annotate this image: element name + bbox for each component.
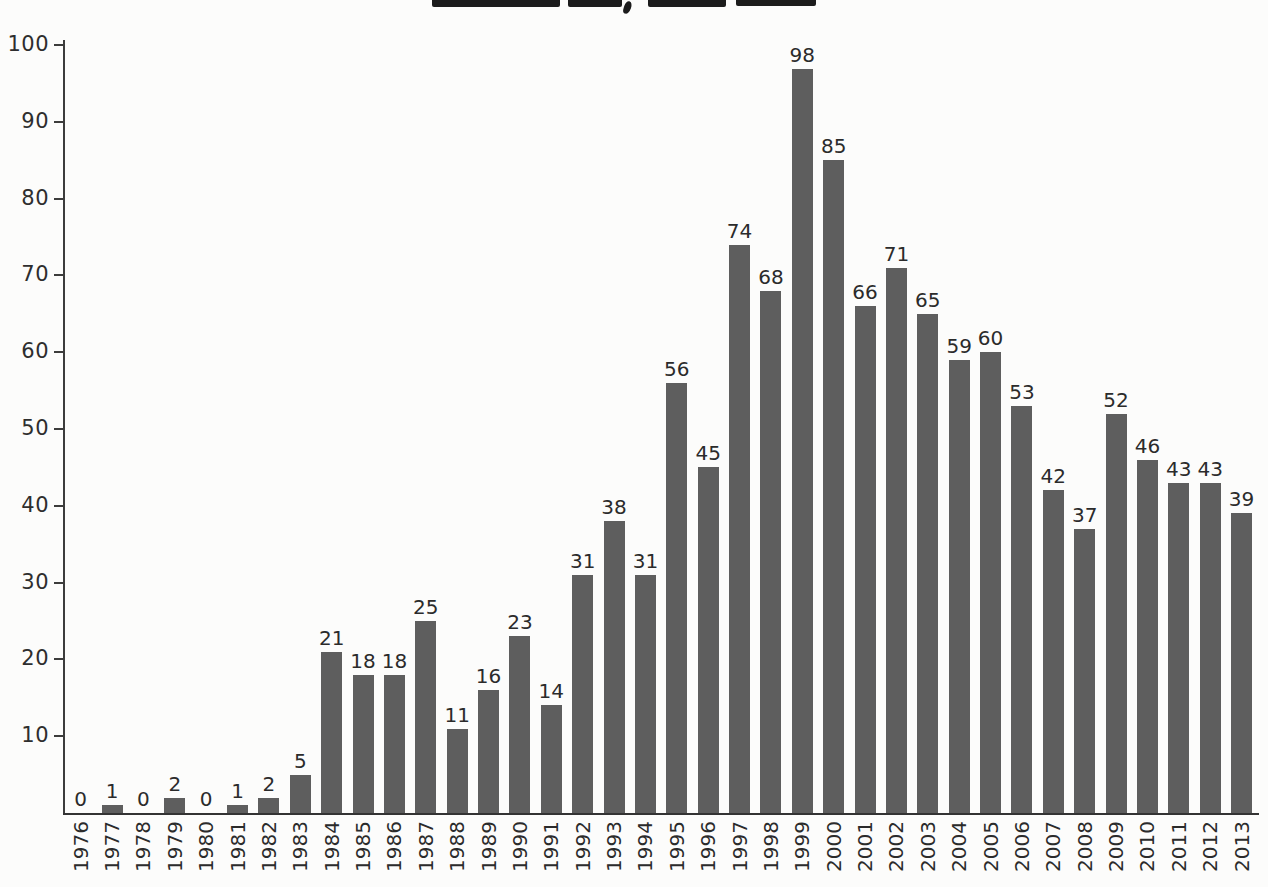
bar-value-label: 1 [106, 781, 119, 801]
bar-value-label: 42 [1041, 466, 1066, 486]
bar-value-label: 46 [1135, 436, 1160, 456]
x-axis-tick-label: 1983 [290, 821, 310, 872]
bar-value-label: 66 [852, 282, 877, 302]
bar-value-label: 5 [294, 751, 307, 771]
bar-value-label: 0 [137, 789, 150, 809]
y-axis-tick-mark [54, 735, 64, 737]
x-axis-tick-label: 1978 [133, 821, 153, 872]
bar-value-label: 98 [790, 45, 815, 65]
x-axis-tick-label: 2008 [1075, 821, 1095, 872]
bar-group: 18 1986 [379, 45, 410, 813]
cropped-title-fragment [648, 0, 726, 7]
bar-group: 38 1993 [598, 45, 629, 813]
bar [572, 575, 593, 813]
x-axis-tick-label: 2007 [1043, 821, 1063, 872]
x-axis-tick-label: 1996 [698, 821, 718, 872]
bar-group: 2 1982 [253, 45, 284, 813]
bar-group: 56 1995 [661, 45, 692, 813]
bar-value-label: 74 [727, 221, 752, 241]
y-axis-tick-label: 80 [21, 187, 49, 208]
x-axis-tick-label: 1990 [510, 821, 530, 872]
x-axis-tick-label: 1998 [761, 821, 781, 872]
x-axis-tick-label: 1994 [635, 821, 655, 872]
x-axis-tick-label: 1982 [259, 821, 279, 872]
bar-value-label: 71 [884, 244, 909, 264]
bar-group: 52 2009 [1100, 45, 1131, 813]
bar-group: 65 2003 [912, 45, 943, 813]
y-axis-tick-mark [54, 198, 64, 200]
y-axis-tick-label: 30 [21, 571, 49, 592]
bar [258, 798, 279, 813]
bar-group: 14 1991 [536, 45, 567, 813]
cropped-title-fragment [736, 0, 816, 6]
x-axis-tick-label: 2012 [1200, 821, 1220, 872]
y-axis-tick-label: 10 [21, 725, 49, 746]
bar-value-label: 60 [978, 328, 1003, 348]
bar-group: 0 1976 [65, 45, 96, 813]
bar [164, 798, 185, 813]
bar-value-label: 11 [444, 705, 469, 725]
bar-group: 66 2001 [849, 45, 880, 813]
x-axis-tick-label: 1980 [196, 821, 216, 872]
bar-group: 46 2010 [1132, 45, 1163, 813]
bar-value-label: 39 [1229, 489, 1254, 509]
bar-value-label: 52 [1103, 390, 1128, 410]
bar-group: 85 2000 [818, 45, 849, 813]
cropped-title-fragment [622, 0, 633, 15]
x-axis-tick-label: 1985 [353, 821, 373, 872]
bar-value-label: 43 [1166, 459, 1191, 479]
bar-group: 60 2005 [975, 45, 1006, 813]
bar-value-label: 38 [601, 497, 626, 517]
bar-value-label: 56 [664, 359, 689, 379]
y-axis-tick-label: 90 [21, 110, 49, 131]
bar-value-label: 68 [758, 267, 783, 287]
bar-group: 2 1979 [159, 45, 190, 813]
bar-value-label: 43 [1197, 459, 1222, 479]
bar-group: 59 2004 [944, 45, 975, 813]
bar-value-label: 85 [821, 136, 846, 156]
bar-value-label: 2 [168, 774, 181, 794]
x-axis-tick-label: 2004 [949, 821, 969, 872]
y-axis-tick-label: 40 [21, 494, 49, 515]
bar-group: 31 1992 [567, 45, 598, 813]
bar-group: 42 2007 [1038, 45, 1069, 813]
bar-group: 0 1980 [191, 45, 222, 813]
bar [478, 690, 499, 813]
bar-value-label: 14 [539, 681, 564, 701]
bar [855, 306, 876, 813]
bar-group: 18 1985 [347, 45, 378, 813]
bar [1168, 483, 1189, 813]
bar-chart: 10 20 30 40 50 60 70 [0, 0, 1268, 887]
bar [698, 467, 719, 813]
x-axis-tick-label: 2013 [1232, 821, 1252, 872]
y-axis-tick-label: 60 [21, 341, 49, 362]
bar-group: 68 1998 [755, 45, 786, 813]
bar-value-label: 1 [231, 781, 244, 801]
y-axis-tick-mark [54, 658, 64, 660]
bar-group: 31 1994 [630, 45, 661, 813]
bar-group: 11 1988 [442, 45, 473, 813]
bar [823, 160, 844, 813]
bar-value-label: 23 [507, 612, 532, 632]
bar-group: 16 1989 [473, 45, 504, 813]
bar-group: 1 1977 [96, 45, 127, 813]
bar-value-label: 16 [476, 666, 501, 686]
bar-value-label: 59 [946, 336, 971, 356]
x-axis-tick-label: 1995 [667, 821, 687, 872]
x-axis-tick-label: 1987 [416, 821, 436, 872]
bar-group: 45 1996 [693, 45, 724, 813]
bar [1231, 513, 1252, 813]
bar [447, 729, 468, 813]
bar-group: 37 2008 [1069, 45, 1100, 813]
x-axis-tick-label: 2002 [886, 821, 906, 872]
x-axis-tick-label: 1989 [479, 821, 499, 872]
y-axis-tick-mark [54, 582, 64, 584]
x-axis-tick-label: 2011 [1169, 821, 1189, 872]
bar-value-label: 18 [382, 651, 407, 671]
y-axis-tick-label: 70 [21, 264, 49, 285]
bar-value-label: 0 [74, 789, 87, 809]
x-axis-tick-label: 1991 [541, 821, 561, 872]
x-axis-tick-label: 1992 [573, 821, 593, 872]
bar [384, 675, 405, 813]
bar [509, 636, 530, 813]
